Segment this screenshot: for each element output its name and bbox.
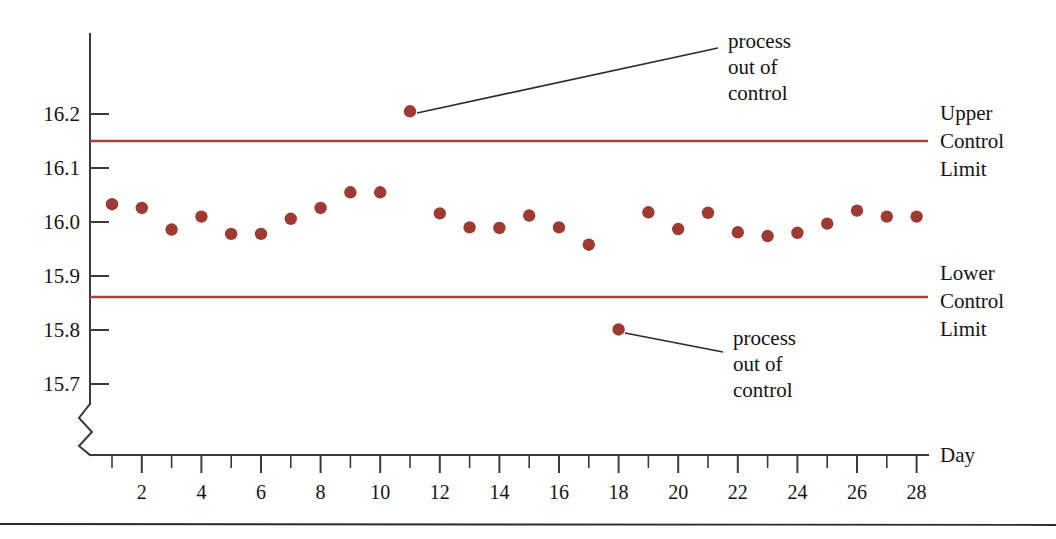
ucl-label-line1: Upper [940, 101, 992, 125]
data-point [314, 202, 326, 214]
y-axis-tick-label: 16.1 [43, 156, 80, 180]
lcl-label-line3: Limit [940, 317, 987, 341]
data-point [702, 207, 714, 219]
data-point [285, 213, 297, 225]
data-point [255, 228, 267, 240]
data-point [195, 210, 207, 222]
x-axis-tick-label: 18 [609, 481, 629, 503]
data-point [910, 210, 922, 222]
upper-annot-line2: out of [728, 55, 778, 79]
data-point [523, 209, 535, 221]
data-point [136, 202, 148, 214]
data-point [106, 198, 118, 210]
x-axis-tick-label: 6 [256, 481, 266, 503]
data-point [821, 217, 833, 229]
y-axis-tick-label: 15.8 [43, 318, 80, 342]
lower-annot-line1: process [733, 326, 796, 350]
lower-annot-line2: out of [733, 352, 783, 376]
data-point [881, 210, 893, 222]
data-point [493, 222, 505, 234]
data-point [225, 228, 237, 240]
x-axis-tick-label: 24 [787, 481, 807, 503]
y-axis-break-icon [79, 404, 92, 455]
x-axis-tick-label: 22 [728, 481, 748, 503]
data-point [732, 226, 744, 238]
data-point [434, 207, 446, 219]
x-axis-tick-label: 2 [137, 481, 147, 503]
data-point [374, 186, 386, 198]
control-chart-figure: 16.216.116.015.915.815.7 246810121416182… [0, 0, 1056, 539]
x-axis-tick-label: 8 [316, 481, 326, 503]
data-point [583, 238, 595, 250]
x-axis-tick-label: 10 [370, 481, 390, 503]
y-axis-ticks [90, 114, 109, 384]
x-axis-tick-label: 14 [489, 481, 509, 503]
data-point [672, 223, 684, 235]
chart-svg: 16.216.116.015.915.815.7 246810121416182… [0, 0, 1056, 539]
data-point [463, 221, 475, 233]
data-points [106, 105, 923, 336]
data-point [165, 223, 177, 235]
ucl-label-line2: Control [940, 129, 1004, 153]
lower-annot-line3: control [733, 378, 793, 402]
data-point [344, 186, 356, 198]
data-point [642, 206, 654, 218]
x-axis-tick-label: 20 [668, 481, 688, 503]
lower-annotation-leader-line [625, 333, 723, 352]
data-point [612, 323, 624, 335]
data-point [404, 105, 416, 117]
x-axis-tick-labels: 246810121416182022242628 [137, 481, 927, 503]
lower-out-of-control-annotation: process out of control [733, 326, 796, 402]
y-axis-tick-label: 15.9 [43, 264, 80, 288]
lower-control-limit-label: Lower Control Limit [940, 261, 1004, 341]
upper-out-of-control-annotation: process out of control [728, 29, 791, 105]
x-axis-tick-label: 4 [196, 481, 206, 503]
data-point [553, 221, 565, 233]
y-axis-tick-labels: 16.216.116.015.915.815.7 [43, 102, 80, 396]
lcl-label-line2: Control [940, 289, 1004, 313]
x-axis-tick-label: 28 [907, 481, 927, 503]
control-limit-lines [90, 141, 928, 297]
upper-control-limit-label: Upper Control Limit [940, 101, 1004, 181]
upper-annot-line3: control [728, 81, 788, 105]
upper-annotation-leader-line [417, 48, 718, 113]
x-axis-tick-label: 26 [847, 481, 867, 503]
ucl-label-line3: Limit [940, 157, 987, 181]
y-axis-tick-label: 15.7 [43, 372, 80, 396]
data-point [851, 204, 863, 216]
data-point [761, 230, 773, 242]
data-point [791, 227, 803, 239]
x-axis-ticks [112, 455, 917, 473]
x-axis-tick-label: 16 [549, 481, 569, 503]
upper-annot-line1: process [728, 29, 791, 53]
lcl-label-line1: Lower [940, 261, 995, 285]
x-axis-tick-label: 12 [430, 481, 450, 503]
page-bottom-rule [0, 524, 1056, 525]
y-axis-tick-label: 16.2 [43, 102, 80, 126]
x-axis-title: Day [940, 443, 975, 467]
y-axis-tick-label: 16.0 [43, 210, 80, 234]
